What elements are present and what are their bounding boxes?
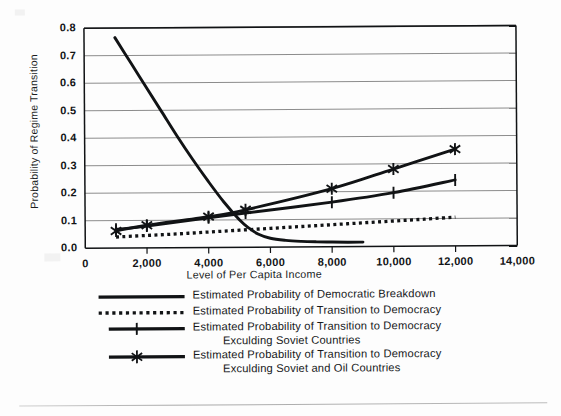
legend-item-transition-to-democracy: Estimated Probability of Transition to D… [97,302,527,320]
y-tick-label: 0.6 [42,76,76,88]
gridline [84,81,516,84]
figure-skew-wrapper: Probability of Regime Transition Level o… [0,0,561,416]
x-tick-label: 8,000 [297,255,367,267]
gridline [85,163,517,166]
legend-label-line2: Exculding Soviet and Oil Countries [193,361,442,376]
legend-label: Estimated Probability of Transition to D… [189,347,442,376]
star-marker-key-icon [97,349,189,365]
legend-label: Estimated Probability of Transition to D… [189,319,442,348]
y-tick-label: 0.3 [43,159,77,171]
y-tick-label: 0.1 [43,214,77,226]
y-tick-label: 0.7 [42,49,76,61]
y-tick-label: 0.8 [42,21,76,33]
x-axis-title: Level of Per Capita Income [186,268,322,281]
gridline [84,108,516,111]
chart-legend: Estimated Probability of Democratic Brea… [97,286,528,377]
legend-item-democratic-breakdown: Estimated Probability of Democratic Brea… [97,286,527,304]
legend-label: Estimated Probability of Transition to D… [189,303,442,318]
x-tick-label: 2,000 [112,257,182,269]
axis-line-top [84,26,516,29]
legend-label-line2: Exculding Soviet Countries [193,333,442,348]
gridline [84,53,516,56]
x-tick-label: 4,000 [174,256,244,268]
legend-label-line1: Estimated Probability of Transition to D… [193,303,442,317]
gridline [85,191,517,194]
x-tick-label: 12,000 [421,255,491,267]
x-tick-label: 6,000 [235,256,305,268]
axis-line-bottom [85,246,517,249]
axis-line-left [84,28,85,248]
legend-label-line1: Estimated Probability of Transition to D… [193,347,442,361]
legend-item-transition-excl-soviet-oil: Estimated Probability of Transition to D… [97,347,527,377]
dotted-line-key-icon [97,305,189,321]
y-tick-label: 0.0 [43,241,77,253]
gridline [85,218,517,221]
y-tick-label: 0.5 [42,104,76,116]
y-axis-title: Probability of Regime Transition [27,31,40,231]
solid-line-key-icon [97,289,189,305]
x-tick-label: 10,000 [359,255,429,267]
x-tick-label: 14,000 [482,254,552,266]
legend-label-line1: Estimated Probability of Transition to D… [193,319,442,333]
x-tick-label: 0 [50,257,120,269]
legend-label-line1: Estimated Probability of Democratic Brea… [193,287,436,300]
y-tick-label: 0.4 [43,131,77,143]
figure-container: Probability of Regime Transition Level o… [0,0,561,416]
y-tick-label: 0.2 [43,186,77,198]
series-2 [116,174,456,235]
plus-marker-key-icon [97,321,189,337]
legend-item-transition-excl-soviet: Estimated Probability of Transition to D… [97,318,527,348]
axis-line-right [516,26,517,246]
gridline [85,136,517,139]
legend-label: Estimated Probability of Democratic Brea… [189,287,436,302]
